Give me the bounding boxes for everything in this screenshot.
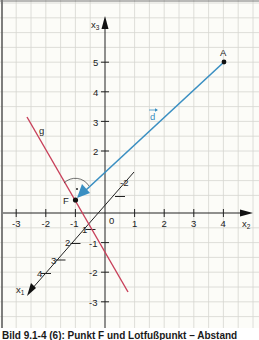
x2-tick-label: 4 — [221, 218, 226, 229]
x2-tick-label: 2 — [162, 218, 167, 229]
x1-tick-label: 1 — [82, 224, 87, 235]
x1-tick-label: 2 — [65, 237, 70, 248]
x3-tick-label: 3 — [93, 117, 98, 128]
x2-tick-label: -2 — [42, 218, 50, 229]
x2-tick-label: -3 — [12, 218, 20, 229]
vector-d-label: d — [150, 111, 155, 122]
point-F-label: F — [63, 195, 69, 206]
x3-tick-label: -1 — [89, 238, 97, 249]
x3-tick-label: 5 — [93, 57, 98, 68]
line-g-label: g — [39, 125, 44, 136]
x3-tick-label: -2 — [89, 267, 97, 278]
x3-tick-label: -3 — [89, 297, 97, 308]
x2-tick-label: 1 — [132, 218, 137, 229]
x3-tick-label: 2 — [93, 146, 98, 157]
figure-caption: Bild 9.1-4 (6): Punkt F und Lotfußpunkt … — [2, 329, 259, 340]
x2-tick-label: -1 — [70, 218, 78, 229]
x3-tick-label: 4 — [93, 87, 98, 98]
x1-neg-tick-label: -2 — [120, 177, 128, 188]
origin-label: 0 — [109, 215, 114, 226]
coordinate-diagram: -3 -2 -1 1 2 3 4 0 x2 5 4 3 2 -1 -2 -3 x… — [0, 0, 259, 340]
x2-tick-label: 3 — [191, 218, 196, 229]
x1-tick-label: 4 — [37, 268, 42, 279]
point-A-label: A — [220, 47, 227, 58]
right-angle-dot — [76, 188, 78, 190]
x1-tick-label: 3 — [51, 255, 56, 266]
